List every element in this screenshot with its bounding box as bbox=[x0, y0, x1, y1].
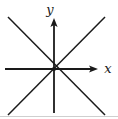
coordinate-axes-figure: y x bbox=[0, 0, 118, 119]
x-axis-label: x bbox=[104, 61, 112, 76]
y-axis-label: y bbox=[45, 2, 54, 17]
origin-point bbox=[52, 67, 56, 71]
figure-canvas: y x bbox=[0, 0, 118, 119]
